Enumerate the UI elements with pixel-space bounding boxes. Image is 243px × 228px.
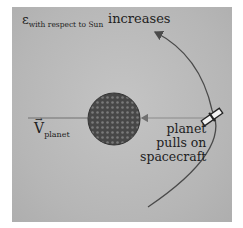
force-label-line-2: pulls on bbox=[140, 136, 206, 150]
planet-icon bbox=[88, 93, 140, 145]
increases-label: increases bbox=[108, 11, 171, 26]
epsilon-symbol: ε bbox=[22, 12, 29, 27]
velocity-label: →Vplanet bbox=[34, 120, 70, 136]
epsilon-subscript: with respect to Sun bbox=[29, 20, 103, 29]
eccentricity-label: εwith respect to Sun bbox=[22, 12, 103, 27]
velocity-subscript: planet bbox=[44, 130, 70, 139]
force-label-line-3: spacecraft bbox=[140, 150, 206, 164]
vector-arrow-icon: → bbox=[35, 114, 43, 124]
force-label-line-1: planet bbox=[140, 122, 206, 136]
force-label: planet pulls on spacecraft bbox=[140, 122, 206, 164]
